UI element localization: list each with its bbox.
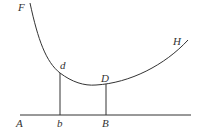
label-A: A bbox=[15, 117, 23, 129]
label-H: H bbox=[172, 35, 182, 47]
label-b: b bbox=[57, 117, 63, 129]
label-d: d bbox=[60, 59, 66, 71]
diagram-canvas: F H d D A b B bbox=[0, 0, 201, 134]
label-B: B bbox=[102, 117, 109, 129]
curve-FH bbox=[30, 3, 188, 85]
label-F: F bbox=[17, 1, 25, 13]
label-D: D bbox=[100, 72, 109, 84]
